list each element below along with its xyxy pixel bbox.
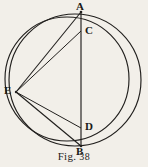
segment-chord-AE [16,12,81,92]
caption-number: 38 [79,151,90,162]
inner-circle [5,17,129,141]
figure-caption: Fig. 38 [0,150,148,162]
segment-chord-EC [16,31,81,92]
point-label-D: D [85,121,93,132]
point-label-A: A [76,1,84,12]
figure-drawing-canvas [0,0,148,167]
vertex-marker-E [15,91,17,93]
point-label-C: C [85,25,93,36]
geometry-figure-38: A C E D B Fig. 38 [0,0,148,167]
segment-chord-ED [16,92,81,128]
caption-prefix: Fig. [58,150,77,162]
point-label-E: E [4,85,11,96]
vertex-markers-group [15,11,82,148]
